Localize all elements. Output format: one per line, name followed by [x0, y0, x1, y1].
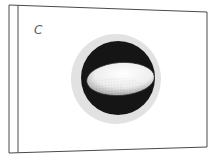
panel-label: C — [34, 24, 42, 36]
figure-panel: C — [0, 0, 220, 161]
illustration — [0, 0, 220, 161]
